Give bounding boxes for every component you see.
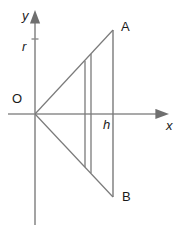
r-tick-label: r	[22, 40, 26, 53]
x-axis-label: x	[166, 119, 173, 132]
origin-label: O	[12, 92, 22, 105]
point-a-label: A	[121, 20, 130, 33]
h-tick-label: h	[103, 118, 110, 131]
segment-OA	[35, 30, 113, 114]
figure-container: y r O h x A B	[0, 0, 180, 234]
diagram-canvas	[0, 0, 180, 234]
point-b-label: B	[122, 190, 131, 203]
segment-OB	[35, 114, 113, 197]
y-axis-label: y	[22, 9, 29, 22]
